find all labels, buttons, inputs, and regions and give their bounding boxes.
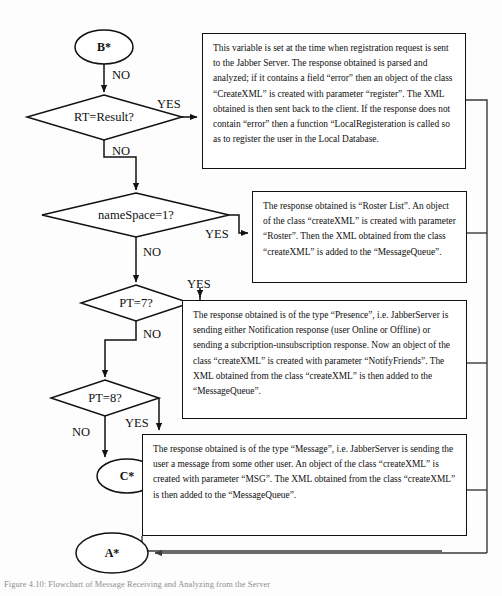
terminator-c-label: C* [120,469,135,483]
figure-canvas: B* NO RT=Result? YES NO nameSpace=1? YES… [0,0,502,596]
terminator-a-label: A* [105,546,120,560]
edge-label-rt-yes: YES [157,97,181,111]
edge-label-namespace-yes: YES [205,227,229,241]
edge-label-pt8-yes: YES [125,416,149,430]
decision-namespace-label: nameSpace=1? [98,208,174,222]
rail-main-vertical [466,100,487,553]
note-box-result: This variable is set at the time when re… [202,33,466,169]
note-box-roster: The response obtained is “Roster List”. … [252,191,467,283]
terminator-b-label: B* [97,40,111,54]
edge-pt7-no [105,321,136,377]
rail-note4-bottom [142,536,442,551]
edge-label-pt7-no: NO [143,327,161,341]
edge-label-pt7-yes: YES [187,277,211,291]
decision-pt8-label: PT=8? [88,391,122,405]
decision-pt7-label: PT=7? [119,296,153,310]
edge-label-b-to-rt: NO [112,68,130,82]
decision-rt-result-label: RT=Result? [74,110,134,124]
figure-caption: Figure 4.10: Flowchart of Message Receiv… [4,580,424,589]
note-box-message: The response obtained is of the type “Me… [142,434,467,536]
note-box-presence: The response obtained is of the type “Pr… [182,300,467,419]
edge-label-pt8-no: NO [72,425,90,439]
edge-label-namespace-no: NO [143,245,161,259]
edge-label-rt-no: NO [112,144,130,158]
edge-namespace-yes [229,215,248,233]
